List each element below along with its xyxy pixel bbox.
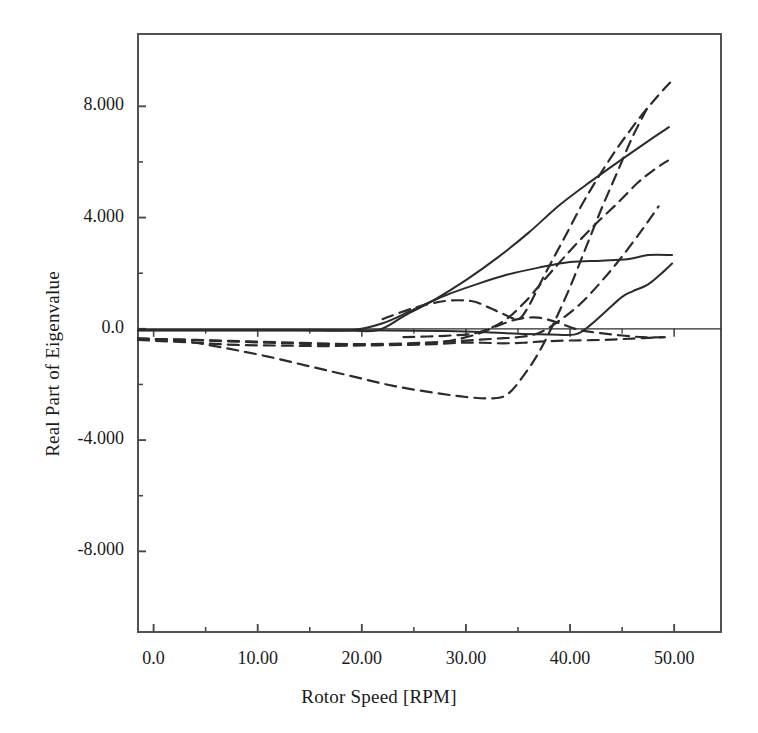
series-line-mode-8-dashed-flat-near-zero (138, 206, 659, 344)
y-tick-label: 0.0 (34, 317, 124, 338)
x-tick-label: 10.00 (213, 648, 303, 669)
x-tick-label: 40.00 (525, 648, 615, 669)
series-line-mode-1-solid-rising-steep (138, 127, 669, 331)
x-tick-label: 50.00 (629, 648, 719, 669)
x-tick-label: 0.0 (109, 648, 199, 669)
y-axis-title: Real Part of Eigenvalue (42, 214, 64, 514)
plot-frame (138, 34, 721, 632)
x-tick-label: 20.00 (317, 648, 407, 669)
eigenvalue-chart-figure: Rotor Speed [RPM] Real Part of Eigenvalu… (0, 0, 758, 733)
y-tick-label: 8.000 (34, 94, 124, 115)
y-tick-label: -8.000 (34, 539, 124, 560)
series-line-mode-3-solid-lower-rising (138, 263, 672, 335)
x-tick-label: 30.00 (421, 648, 511, 669)
series-line-mode-6-dashed-deep-dip (138, 106, 648, 398)
data-series-group (138, 83, 672, 399)
y-tick-label: 4.000 (34, 206, 124, 227)
y-tick-label: -4.000 (34, 428, 124, 449)
series-line-mode-4-dashed-steepest (383, 83, 670, 320)
x-axis-title: Rotor Speed [RPM] (0, 686, 758, 708)
